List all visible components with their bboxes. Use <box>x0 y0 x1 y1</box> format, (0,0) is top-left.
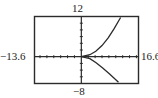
parabola-curve <box>81 18 120 83</box>
axes <box>35 17 139 84</box>
window-frame <box>35 17 139 84</box>
plot-area <box>0 0 158 98</box>
tick-marks <box>40 17 136 84</box>
